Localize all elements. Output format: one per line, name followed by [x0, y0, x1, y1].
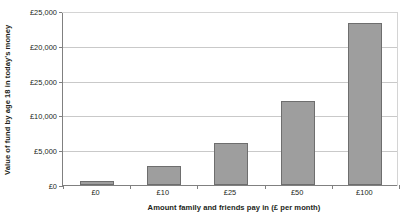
bar [214, 143, 248, 185]
x-axis-tick-label: £10 [157, 188, 169, 197]
y-axis-tick-mark [59, 151, 63, 152]
y-axis-tick-label: £5,000 [34, 147, 57, 156]
plot-area [62, 12, 398, 186]
x-axis-title-text: Amount family and friends pay in (£ per … [148, 203, 321, 212]
y-axis-tick-mark [59, 116, 63, 117]
y-axis-tick-labels: £0£5,000£10,000£25,000£20,000£25,000 [16, 8, 60, 186]
x-axis-tick-label: £0 [91, 188, 99, 197]
y-axis-tick-label: £25,000 [30, 8, 57, 17]
plot-frame-right [397, 12, 398, 186]
bar [281, 101, 315, 185]
y-axis-tick-label: £25,000 [30, 77, 57, 86]
bar [147, 166, 181, 185]
y-axis-title: Value of fund by age 18 in today's money [0, 0, 16, 199]
x-axis-tick-label: £25 [224, 188, 236, 197]
y-axis-title-text: Value of fund by age 18 in today's money [4, 24, 12, 174]
x-axis-tick-labels: £0£10£25£50£100 [62, 188, 398, 201]
plot-frame-top [62, 12, 398, 13]
y-axis-tick-mark [59, 47, 63, 48]
x-axis-tick-label: £50 [291, 188, 303, 197]
y-axis-tick-mark [59, 82, 63, 83]
y-axis-tick-label: £10,000 [30, 112, 57, 121]
bar [348, 23, 382, 185]
bar-chart: Value of fund by age 18 in today's money… [0, 0, 405, 219]
bar [80, 181, 114, 185]
y-axis-tick-label: £20,000 [30, 42, 57, 51]
x-axis-tick-label: £100 [356, 188, 373, 197]
x-axis-tick-mark [399, 185, 400, 189]
y-axis-tick-label: £0 [49, 182, 57, 191]
x-axis-title: Amount family and friends pay in (£ per … [63, 203, 405, 217]
